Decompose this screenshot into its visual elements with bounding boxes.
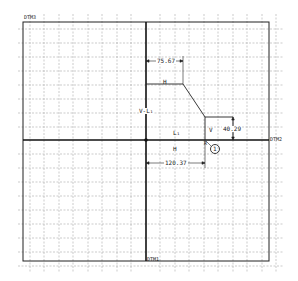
label-l1-left: V-L₁ xyxy=(139,108,153,114)
callout-number: 1 xyxy=(213,146,217,152)
dimension-value-bottom: 120.37 xyxy=(164,160,188,166)
callout-letter: R xyxy=(204,141,207,146)
origin-point xyxy=(144,138,148,142)
dimension-value-top: 75.67 xyxy=(156,58,176,64)
dimension-value-right: 40.29 xyxy=(222,126,242,132)
label-l1-center: L₁ xyxy=(173,130,180,136)
datum-label-dtm1: DTM1 xyxy=(147,257,159,262)
label-h-top: H xyxy=(163,79,167,85)
datum-label-dtm3: DTM3 xyxy=(24,15,36,20)
profile-path xyxy=(146,84,233,117)
datum-label-dtm2: DTM2 xyxy=(270,137,282,142)
drawing-canvas xyxy=(0,0,298,281)
label-v-right: V xyxy=(209,127,213,133)
label-h-bottom: H xyxy=(173,146,177,152)
grid xyxy=(18,14,284,272)
